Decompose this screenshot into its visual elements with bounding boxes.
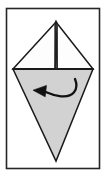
- origami-diagram-canvas: Origami fold step diagram Kite-shaped pa…: [0, 0, 107, 179]
- origami-figure: Origami fold step diagram Kite-shaped pa…: [0, 0, 107, 179]
